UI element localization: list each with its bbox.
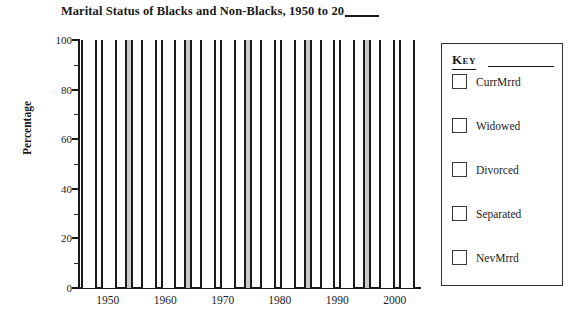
legend-swatch-icon [452,162,467,177]
legend-title-rule [488,66,554,68]
chart-bar [379,40,395,288]
chart-title: Marital Status of Blacks and Non-Blacks,… [0,4,440,19]
legend-item-widowed[interactable]: Widowed [452,118,520,133]
chart-bar [363,40,371,288]
y-axis-tick-label: 40 [38,183,72,194]
y-axis-title: Percentage [21,88,33,168]
legend-key-box: Key CurrMrrdWidowedDivorcedSeparatedNevM… [441,43,563,286]
chart-bar [81,40,97,288]
legend-item-label: Separated [476,208,521,220]
chart-bar [320,40,336,288]
chart-bar [399,40,415,288]
chart-bar [304,40,312,288]
chart-title-blank [345,15,379,17]
x-axis-tick-label: 1980 [268,294,291,306]
y-axis-tick-label: 0 [38,283,72,294]
y-axis-tick-mark [72,138,79,140]
x-axis-tick-label: 1950 [96,294,119,306]
y-axis-tick-mark [72,237,79,239]
x-axis-tick-labels: 195019601970198019902000 [79,294,424,314]
x-axis-tick-label: 1990 [326,294,349,306]
y-axis-tick-label: 80 [38,84,72,95]
legend-item-label: Divorced [476,164,519,176]
y-axis-tick-mark [72,39,79,41]
legend-title: Key [452,52,476,70]
y-axis-tick-label: 60 [38,134,72,145]
x-axis-tick-label: 2000 [383,294,406,306]
chart-title-text: Marital Status of Blacks and Non-Blacks,… [61,4,344,18]
legend-swatch-icon [452,250,467,265]
y-axis-tick-label: 100 [38,35,72,46]
chart-bar [280,40,296,288]
chart-bar [260,40,276,288]
y-axis-tick-mark [72,188,79,190]
legend-swatch-icon [452,206,467,221]
legend-item-separated[interactable]: Separated [452,206,521,221]
chart-bar [141,40,157,288]
chart-bar [339,40,355,288]
x-axis-tick-label: 1960 [154,294,177,306]
plot-area [79,40,417,288]
x-axis-tick-label: 1970 [211,294,234,306]
legend-swatch-icon [452,118,467,133]
y-axis-tick-mark [72,287,79,289]
chart-bar [220,40,236,288]
chart-bar [244,40,252,288]
legend-item-divorced[interactable]: Divorced [452,162,519,177]
y-axis-tick-mark [72,89,79,91]
legend-item-nevmrrd[interactable]: NevMrrd [452,250,519,265]
legend-item-label: CurrMrrd [476,76,521,88]
chart-bar [200,40,216,288]
chart-bar [184,40,192,288]
y-axis-tick-labels: 100806040200 [34,40,72,288]
legend-swatch-icon [452,74,467,89]
legend-item-label: NevMrrd [476,252,519,264]
legend-item-label: Widowed [476,120,520,132]
chart-bar [101,40,117,288]
y-axis-tick-label: 20 [38,233,72,244]
chart-bar [125,40,133,288]
legend-item-currmrrd[interactable]: CurrMrrd [452,74,521,89]
chart-bar [161,40,177,288]
legend-title-row: Key [452,50,554,67]
